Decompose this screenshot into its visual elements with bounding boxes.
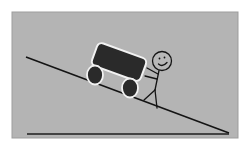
cart-wheel-back (87, 66, 103, 85)
illustration-scene (0, 0, 246, 146)
cart-wheel-front (122, 79, 138, 98)
figure-eye-left (159, 58, 161, 60)
figure-head (153, 52, 172, 71)
figure-eye-right (164, 57, 166, 59)
